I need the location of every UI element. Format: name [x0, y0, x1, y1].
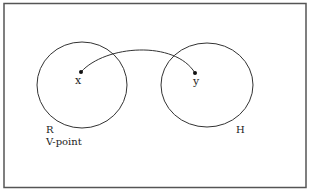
set-r-label: R	[46, 124, 54, 135]
set-h-label: H	[236, 124, 245, 135]
point-x-label: x	[75, 74, 82, 87]
diagram-canvas: x y R V-point H	[0, 0, 309, 190]
frame-border	[4, 4, 306, 188]
point-y-label: y	[192, 75, 200, 88]
set-r-sublabel: V-point	[45, 136, 82, 147]
